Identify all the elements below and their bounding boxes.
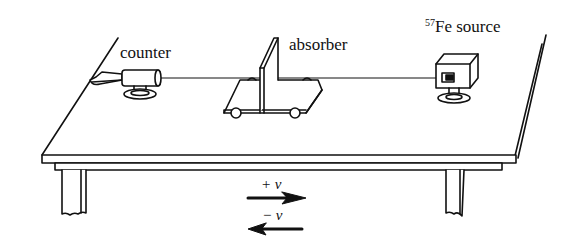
counter-label: counter xyxy=(120,44,171,61)
counter xyxy=(90,70,161,99)
element-symbol: Fe xyxy=(435,17,452,36)
diagram-canvas: counter absorber 57Fe source + v − v xyxy=(0,0,572,240)
plus-v-label: + v xyxy=(261,177,282,192)
isotope-mass-number: 57 xyxy=(425,17,435,28)
source-label: 57Fe source xyxy=(425,18,501,35)
absorber-label: absorber xyxy=(289,36,348,53)
minus-v-label: − v xyxy=(262,208,283,223)
source-word: source xyxy=(456,17,500,36)
fe57-source xyxy=(436,54,478,103)
apparatus-drawing xyxy=(0,0,572,240)
